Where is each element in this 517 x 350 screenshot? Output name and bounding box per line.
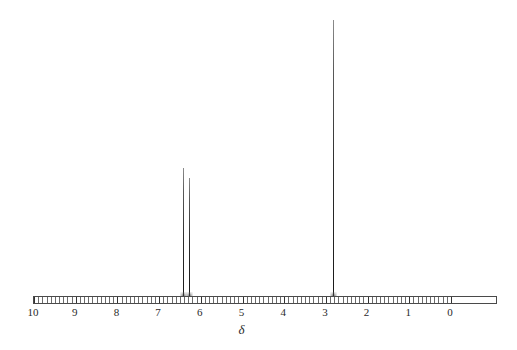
axis-tick-minor: [213, 297, 214, 303]
axis-tick-minor: [438, 297, 439, 303]
axis-tick-major: [368, 297, 369, 303]
axis-tick-minor: [380, 297, 381, 303]
axis-tick-minor: [101, 297, 102, 303]
axis-tick-minor: [188, 297, 189, 303]
axis-tick-label: 7: [146, 306, 170, 319]
axis-tick-minor: [97, 297, 98, 303]
axis-tick-minor: [372, 297, 373, 303]
axis-tick-label: 2: [355, 306, 379, 319]
axis-tick-label: 8: [104, 306, 128, 319]
axis-tick-label: 10: [21, 306, 45, 319]
axis-tick-minor: [426, 297, 427, 303]
axis-tick-minor: [130, 297, 131, 303]
axis-tick-major: [451, 297, 452, 303]
axis-tick-major: [34, 297, 35, 303]
axis-tick-label: 0: [438, 306, 462, 319]
axis-tick-major: [201, 297, 202, 303]
peak-aromatic-b: [189, 178, 190, 296]
axis-tick-minor: [305, 297, 306, 303]
axis-tick-minor: [259, 297, 260, 303]
axis-tick-minor: [180, 297, 181, 303]
axis-tick-minor: [138, 297, 139, 303]
axis-tick-minor: [288, 297, 289, 303]
axis-tick-minor: [297, 297, 298, 303]
axis-tick-minor: [359, 297, 360, 303]
axis-tick-major: [159, 297, 160, 303]
axis-tick-minor: [155, 297, 156, 303]
axis-tick-minor: [255, 297, 256, 303]
axis-tick-minor: [80, 297, 81, 303]
nmr-spectrum-figure: 109876543210 δ: [0, 0, 517, 350]
axis-tick-minor: [443, 297, 444, 303]
axis-tick-minor: [105, 297, 106, 303]
axis-tick-minor: [172, 297, 173, 303]
axis-tick-minor: [167, 297, 168, 303]
axis-tick-minor: [276, 297, 277, 303]
axis-tick-minor: [42, 297, 43, 303]
axis-tick-major: [409, 297, 410, 303]
axis-tick-minor: [355, 297, 356, 303]
axis-tick-minor: [405, 297, 406, 303]
axis-tick-major: [76, 297, 77, 303]
axis-tick-minor: [330, 297, 331, 303]
axis-tick-minor: [376, 297, 377, 303]
axis-tick-label: 9: [63, 306, 87, 319]
axis-tick-minor: [222, 297, 223, 303]
axis-tick-major: [326, 297, 327, 303]
axis-tick-minor: [401, 297, 402, 303]
chemical-shift-axis: [33, 296, 497, 304]
axis-tick-minor: [343, 297, 344, 303]
axis-tick-minor: [192, 297, 193, 303]
axis-tick-minor: [126, 297, 127, 303]
axis-tick-major: [243, 297, 244, 303]
axis-tick-minor: [63, 297, 64, 303]
axis-tick-label: 1: [396, 306, 420, 319]
axis-tick-minor: [334, 297, 335, 303]
peak-aromatic-a: [183, 168, 184, 296]
axis-tick-minor: [205, 297, 206, 303]
axis-tick-minor: [134, 297, 135, 303]
axis-tick-label: 6: [188, 306, 212, 319]
axis-tick-minor: [226, 297, 227, 303]
axis-tick-minor: [268, 297, 269, 303]
axis-tick-minor: [347, 297, 348, 303]
axis-tick-minor: [384, 297, 385, 303]
axis-tick-minor: [318, 297, 319, 303]
axis-tick-minor: [363, 297, 364, 303]
axis-tick-minor: [142, 297, 143, 303]
axis-tick-label: 4: [271, 306, 295, 319]
axis-tick-minor: [251, 297, 252, 303]
axis-tick-minor: [92, 297, 93, 303]
axis-title-delta: δ: [227, 322, 257, 338]
axis-tick-minor: [309, 297, 310, 303]
axis-tick-minor: [418, 297, 419, 303]
axis-tick-minor: [230, 297, 231, 303]
axis-tick-minor: [184, 297, 185, 303]
axis-tick-minor: [51, 297, 52, 303]
axis-tick-minor: [84, 297, 85, 303]
axis-tick-minor: [447, 297, 448, 303]
axis-tick-minor: [263, 297, 264, 303]
axis-tick-major: [117, 297, 118, 303]
axis-tick-minor: [151, 297, 152, 303]
axis-tick-minor: [397, 297, 398, 303]
axis-tick-minor: [393, 297, 394, 303]
axis-tick-minor: [109, 297, 110, 303]
axis-tick-minor: [293, 297, 294, 303]
axis-tick-minor: [59, 297, 60, 303]
axis-tick-minor: [434, 297, 435, 303]
axis-tick-minor: [88, 297, 89, 303]
axis-tick-marks: [34, 297, 496, 303]
axis-tick-minor: [413, 297, 414, 303]
axis-tick-minor: [280, 297, 281, 303]
axis-tick-minor: [247, 297, 248, 303]
axis-tick-minor: [176, 297, 177, 303]
axis-tick-minor: [217, 297, 218, 303]
axis-tick-minor: [430, 297, 431, 303]
axis-tick-minor: [422, 297, 423, 303]
axis-tick-minor: [388, 297, 389, 303]
axis-tick-minor: [113, 297, 114, 303]
axis-tick-label: 5: [230, 306, 254, 319]
axis-tick-label: 3: [313, 306, 337, 319]
axis-tick-minor: [55, 297, 56, 303]
